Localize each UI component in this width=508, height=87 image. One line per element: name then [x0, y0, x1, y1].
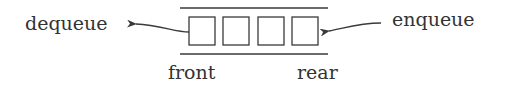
enqueue-arrow-icon [329, 23, 381, 31]
queue-diagram: dequeue enqueue front rear [0, 0, 508, 87]
rear-label: rear [297, 63, 338, 82]
queue-cell-front [189, 17, 215, 45]
dequeue-label: dequeue [25, 14, 108, 33]
queue-cell [258, 17, 284, 45]
queue-cell [223, 17, 249, 45]
enqueue-label: enqueue [392, 10, 475, 29]
queue-cell-rear [292, 17, 318, 45]
dequeue-arrow-icon [136, 24, 189, 32]
front-label: front [168, 63, 215, 82]
